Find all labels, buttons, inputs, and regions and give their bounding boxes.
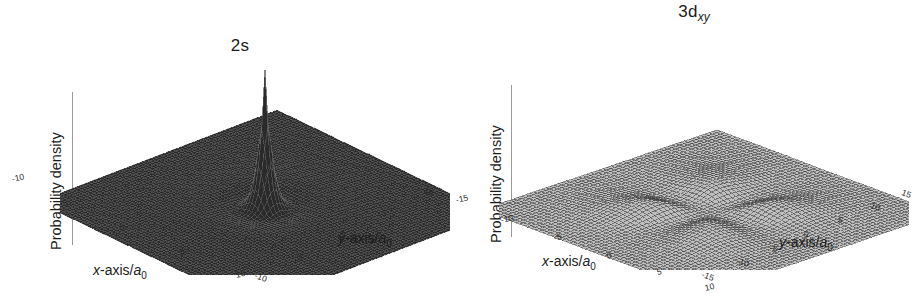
x-tick-3dxy-5: 10 [704, 282, 715, 292]
x-tick-3dxy-2: -5 [553, 232, 562, 242]
panel-title-2s-text: 2s [231, 36, 249, 55]
y-axis-symbol-2s: y [338, 230, 345, 246]
panel-title-2s: 2s [160, 36, 320, 56]
panel-title-3dxy: 3dxy [604, 2, 784, 24]
x-axis-name-2s: x-axis/a0 [93, 262, 147, 281]
x-axis-rest-3dxy: -axis/ [549, 253, 582, 269]
y-tick-3dxy-6: -15 [701, 270, 715, 282]
y-tick-2s-4: -10 [254, 271, 268, 283]
y-axis-rest-3dxy: -axis/ [786, 234, 819, 250]
x-axis-symbol-2s: x [93, 262, 100, 278]
orbital-probability-density-figure: 2s Probability density -10 -5 0 5 10 -10… [0, 0, 918, 305]
x-tick-2s-1: -5 [59, 198, 68, 208]
x-tick-2s-0: -10 [11, 172, 25, 183]
y-axis-unit-2s: a0 [378, 230, 391, 246]
panel-title-3dxy-subscript: xy [698, 10, 710, 24]
y-axis-rest-2s: -axis/ [345, 230, 378, 246]
y-axis-unit-3dxy: a0 [819, 234, 832, 250]
x-axis-symbol-3dxy: x [542, 253, 549, 269]
x-tick-2s-4: 10 [235, 269, 246, 279]
x-tick-3dxy-0: -15 [455, 193, 469, 204]
y-axis-symbol-3dxy: y [779, 234, 786, 250]
x-axis-unit-3dxy: a0 [582, 253, 595, 269]
x-axis-rest-2s: -axis/ [100, 262, 133, 278]
y-axis-name-3dxy: y-axis/a0 [779, 234, 833, 253]
panel-3dxy: 3dxy Probability density -15 -10 -5 0 5 … [459, 0, 918, 305]
y-axis-name-2s: y-axis/a0 [338, 230, 392, 249]
x-axis-name-3dxy: x-axis/a0 [542, 253, 596, 272]
panel-title-3dxy-text: 3d [678, 2, 697, 21]
panel-2s: 2s Probability density -10 -5 0 5 10 -10… [0, 0, 459, 305]
x-axis-unit-2s: a0 [133, 262, 146, 278]
